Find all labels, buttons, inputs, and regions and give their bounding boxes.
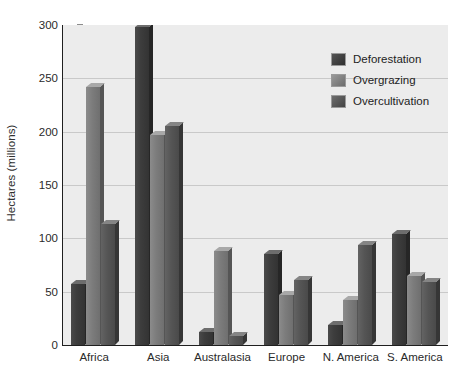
- x-axis-labels: AfricaAsiaAustralasiaEuropeN. AmericaS. …: [62, 351, 447, 371]
- y-tick-label: 100: [24, 232, 58, 244]
- bar-africa-overgrazing: [86, 87, 100, 345]
- y-tick-label: 50: [24, 286, 58, 298]
- bar-face: [343, 300, 357, 345]
- bar-chart: Hectares (millions) 050100150200250300 D…: [0, 0, 474, 378]
- plot-area: DeforestationOvergrazingOvercultivation: [62, 25, 448, 346]
- bar-face: [229, 336, 243, 345]
- y-axis-title-text: Hectares (millions): [5, 124, 17, 221]
- bar-face: [392, 234, 406, 345]
- legend-label: Deforestation: [353, 53, 421, 65]
- gridline: [63, 238, 448, 239]
- y-tick-label: 0: [24, 339, 58, 351]
- bar-africa-deforestation: [71, 284, 85, 345]
- bar-face: [407, 276, 421, 345]
- legend-label: Overgrazing: [353, 74, 416, 86]
- legend-item-overcultivation: Overcultivation: [331, 91, 449, 111]
- x-axis-label: Africa: [79, 351, 108, 363]
- gridline: [63, 292, 448, 293]
- bar-face: [150, 135, 164, 345]
- x-axis-label: Asia: [147, 351, 169, 363]
- bar-europe-overcultivation: [294, 280, 308, 345]
- bar-s-america-deforestation: [392, 234, 406, 345]
- x-axis-label: N. America: [323, 351, 379, 363]
- y-tick-label: 250: [24, 72, 58, 84]
- chart-legend: DeforestationOvergrazingOvercultivation: [331, 49, 449, 112]
- bar-side-facet: [308, 276, 312, 345]
- bar-africa-overcultivation: [101, 224, 115, 345]
- bar-face: [279, 295, 293, 345]
- bar-face: [135, 27, 149, 345]
- x-axis-label: S. America: [387, 351, 443, 363]
- bar-europe-deforestation: [264, 254, 278, 345]
- bar-face: [294, 280, 308, 345]
- legend-item-deforestation: Deforestation: [331, 49, 449, 69]
- bar-n-america-overcultivation: [358, 245, 372, 345]
- bar-side-facet: [436, 278, 440, 345]
- bar-s-america-overcultivation: [422, 282, 436, 345]
- legend-swatch: [331, 53, 346, 66]
- bar-asia-overgrazing: [150, 135, 164, 345]
- bar-s-america-overgrazing: [407, 276, 421, 345]
- bar-face: [71, 284, 85, 345]
- bar-face: [86, 87, 100, 345]
- bar-side-facet: [115, 220, 119, 345]
- legend-swatch: [331, 74, 346, 87]
- y-axis-ticks: 050100150200250300: [20, 0, 58, 378]
- bar-australasia-overcultivation: [229, 336, 243, 345]
- bar-side-facet: [372, 241, 376, 345]
- bar-europe-overgrazing: [279, 295, 293, 345]
- bar-face: [214, 251, 228, 345]
- bar-australasia-overgrazing: [214, 251, 228, 345]
- bar-face: [264, 254, 278, 345]
- bar-face: [358, 245, 372, 345]
- x-axis-label: Europe: [268, 351, 305, 363]
- bar-n-america-deforestation: [328, 325, 342, 345]
- bar-face: [199, 332, 213, 345]
- y-tick-label: 150: [24, 179, 58, 191]
- bar-face: [165, 126, 179, 345]
- bar-n-america-overgrazing: [343, 300, 357, 345]
- bar-face: [328, 325, 342, 345]
- legend-item-overgrazing: Overgrazing: [331, 70, 449, 90]
- y-axis-title: Hectares (millions): [0, 0, 22, 345]
- x-axis-label: Australasia: [194, 351, 251, 363]
- gridline: [63, 132, 448, 133]
- bar-australasia-deforestation: [199, 332, 213, 345]
- bar-side-facet: [179, 122, 183, 345]
- gridline: [63, 185, 448, 186]
- bar-face: [422, 282, 436, 345]
- legend-label: Overcultivation: [353, 95, 429, 107]
- y-tick-label: 200: [24, 126, 58, 138]
- legend-swatch: [331, 95, 346, 108]
- bar-asia-deforestation: [135, 27, 149, 345]
- bar-asia-overcultivation: [165, 126, 179, 345]
- y-tick-label: 300: [24, 19, 58, 31]
- bar-side-facet: [228, 247, 232, 345]
- bar-face: [101, 224, 115, 345]
